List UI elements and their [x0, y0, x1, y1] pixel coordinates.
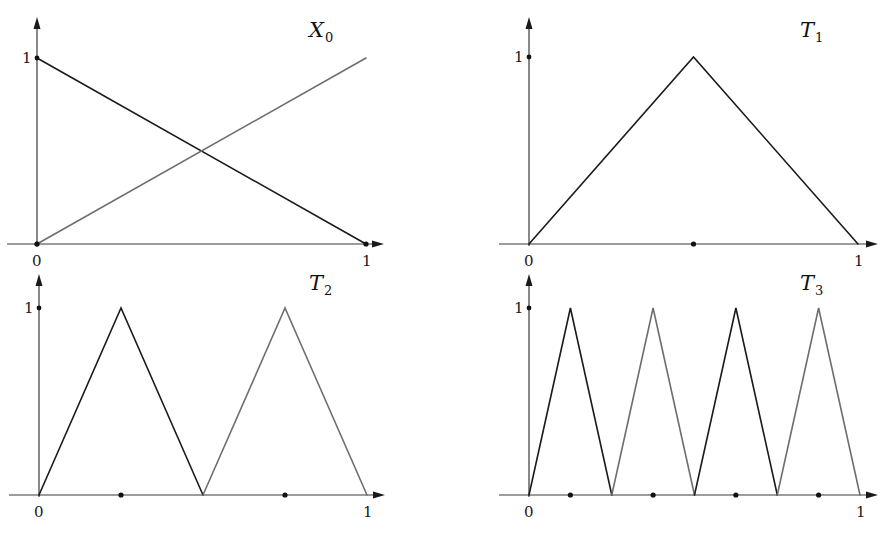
x-end-label: 1	[856, 503, 866, 521]
x-axis-arrow-icon	[866, 241, 878, 248]
y-tick-dot	[527, 306, 532, 311]
tent-3a	[529, 308, 612, 495]
tent-1	[529, 57, 858, 244]
y-tick-dot	[35, 242, 40, 247]
x-tick-dot	[363, 241, 368, 246]
x-tick-dot	[816, 492, 821, 497]
y-tick-dot	[37, 306, 42, 311]
y-axis-arrow-icon	[526, 274, 533, 286]
x-tick-dot	[282, 492, 287, 497]
x-end-label: 1	[363, 503, 373, 521]
y-axis-arrow-icon	[34, 17, 41, 29]
origin-label: 0	[34, 503, 44, 521]
y-tick-dot	[527, 55, 532, 60]
x-axis-arrow-icon	[373, 492, 385, 499]
panel-t1: 011T1	[499, 17, 878, 270]
y-tick-label: 1	[22, 49, 32, 67]
panel-x0: 011X0	[7, 17, 384, 270]
y-tick-label: 1	[514, 48, 524, 66]
x-end-label: 1	[362, 252, 372, 270]
x-axis-arrow-icon	[372, 241, 384, 248]
tent-map-diagram: 011X0 011T1 011T2 011T3	[0, 0, 888, 541]
panel-t2: 011T2	[9, 271, 385, 521]
panel-title: T1	[800, 18, 823, 45]
panel-t3: 011T3	[499, 271, 878, 521]
y-tick-dot	[35, 56, 40, 61]
panel-title: T2	[309, 271, 332, 298]
origin-label: 0	[32, 252, 42, 270]
panel-title: T3	[800, 271, 823, 298]
tent-3c	[695, 308, 778, 495]
tent-2b	[203, 308, 367, 495]
panel-title-subscript: 2	[324, 283, 332, 298]
y-axis-arrow-icon	[526, 17, 533, 29]
y-axis-arrow-icon	[36, 274, 43, 286]
panel-title-subscript: 0	[325, 30, 333, 45]
y-tick-label: 1	[514, 299, 524, 317]
panel-title-subscript: 3	[815, 283, 823, 298]
x-tick-dot	[733, 492, 738, 497]
x-tick-dot	[691, 241, 696, 246]
y-tick-label: 1	[24, 299, 34, 317]
tent-3b	[612, 308, 695, 495]
x-end-label: 1	[854, 252, 864, 270]
x-tick-dot	[651, 492, 656, 497]
tent-3d	[777, 308, 860, 495]
origin-label: 0	[524, 252, 534, 270]
panel-title: X0	[307, 18, 333, 45]
panel-title-subscript: 1	[815, 30, 823, 45]
origin-label: 0	[524, 503, 534, 521]
x-tick-dot	[118, 492, 123, 497]
tent-2a	[39, 308, 203, 495]
x-axis-arrow-icon	[866, 492, 878, 499]
x-tick-dot	[568, 492, 573, 497]
